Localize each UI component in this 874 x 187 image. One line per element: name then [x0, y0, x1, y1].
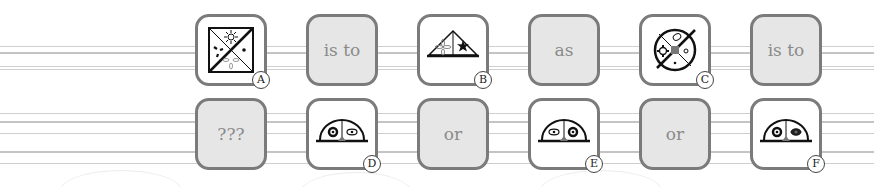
tile-a[interactable]: A — [195, 14, 267, 86]
answer-placeholder-tile: ??? — [195, 98, 267, 170]
label-badge-c: C — [696, 71, 714, 89]
word-tile-is-to-1: is to — [306, 14, 378, 86]
word-tile-as: as — [528, 14, 600, 86]
label-badge-d: D — [363, 155, 381, 173]
circle-quadrants-gear-leaf-dot-icon — [649, 24, 701, 76]
tile-b[interactable]: B — [417, 14, 489, 86]
word-tile-or-1: or — [417, 98, 489, 170]
label-badge-b: B — [474, 71, 492, 89]
tile-e[interactable]: E — [528, 98, 600, 170]
dome-gear-eye-icon — [314, 114, 370, 154]
connector-text: as — [555, 40, 574, 60]
triangle-split-fan-star-icon — [425, 25, 481, 75]
unknown-text: ??? — [217, 124, 244, 144]
label-badge-e: E — [585, 155, 603, 173]
dome-eye-gear-icon — [536, 114, 592, 154]
tile-d[interactable]: D — [306, 98, 378, 170]
label-badge-f: F — [807, 155, 825, 173]
tile-c[interactable]: C — [639, 14, 711, 86]
word-tile-is-to-2: is to — [750, 14, 822, 86]
connector-text: is to — [324, 40, 361, 60]
square-quadrants-sun-spinner-dot-icon — [206, 25, 256, 75]
dome-gear-dark-eye-icon — [758, 114, 814, 154]
label-badge-a: A — [252, 71, 270, 89]
connector-text: is to — [768, 40, 805, 60]
word-tile-or-2: or — [639, 98, 711, 170]
connector-text: or — [666, 124, 684, 144]
tile-f[interactable]: F — [750, 98, 822, 170]
connector-text: or — [444, 124, 462, 144]
